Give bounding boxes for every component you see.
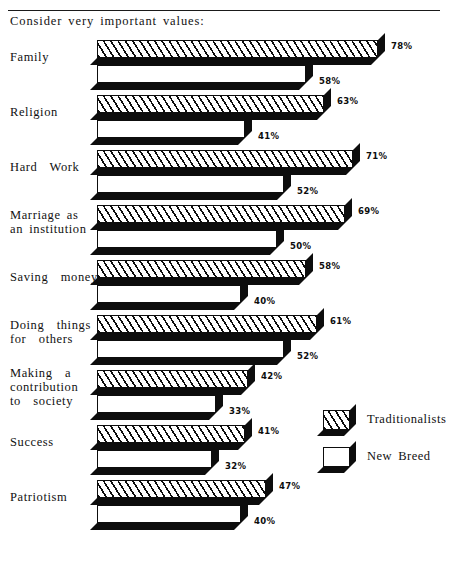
- category-label: Marriage as an institution: [10, 208, 87, 236]
- bar-value-label: 52%: [297, 186, 318, 196]
- category-label: Success: [10, 435, 54, 449]
- bar-new-breed: [97, 65, 306, 83]
- bar-new-breed: [97, 120, 245, 138]
- bar-face: [97, 230, 277, 248]
- bar-traditionalists: [97, 425, 245, 443]
- bar-shadow-bottom: [90, 468, 212, 475]
- bar-traditionalists: [97, 205, 345, 223]
- bar-shadow-bottom: [90, 278, 306, 285]
- bar-value-label: 40%: [254, 296, 275, 306]
- bar-new-breed: [97, 230, 277, 248]
- category-label: Doing things for others: [10, 318, 91, 346]
- bar-shadow-bottom: [90, 138, 245, 145]
- bar-group: Saving money58%40%: [0, 260, 462, 313]
- bar-traditionalists: [97, 40, 378, 58]
- bar-value-label: 32%: [225, 461, 246, 471]
- bar-shadow-bottom: [90, 443, 245, 450]
- bar-face: [97, 260, 306, 278]
- page-title: Consider very important values:: [10, 14, 205, 29]
- bar-shadow-bottom: [90, 113, 324, 120]
- bar-face: [97, 425, 245, 443]
- bar-group: Patriotism47%40%: [0, 480, 462, 533]
- bar-new-breed: [97, 340, 284, 358]
- swatch-face: [323, 447, 350, 467]
- bar-shadow-right: [378, 33, 385, 58]
- bar-new-breed: [97, 450, 212, 468]
- bar-traditionalists: [97, 260, 306, 278]
- bar-value-label: 42%: [261, 371, 282, 381]
- category-label: Family: [10, 50, 49, 64]
- bar-face: [97, 395, 216, 413]
- bar-traditionalists: [97, 480, 266, 498]
- legend-label-new-breed: New Breed: [367, 449, 431, 464]
- legend-swatch-new-breed: [323, 447, 350, 467]
- bar-shadow-bottom: [90, 498, 266, 505]
- category-label: Patriotism: [10, 490, 67, 504]
- bar-shadow-bottom: [90, 388, 248, 395]
- bar-new-breed: [97, 395, 216, 413]
- bar-face: [97, 285, 241, 303]
- bar-shadow-bottom: [90, 303, 241, 310]
- bar-group: Religion63%41%: [0, 95, 462, 148]
- bar-shadow-bottom: [90, 413, 216, 420]
- category-label: Hard Work: [10, 160, 79, 174]
- bar-group: Doing things for others61%52%: [0, 315, 462, 368]
- legend-label-traditionalists: Traditionalists: [367, 412, 446, 427]
- category-label: Making a contribution to society: [10, 366, 78, 408]
- bar-face: [97, 370, 248, 388]
- bar-group: Marriage as an institution69%50%: [0, 205, 462, 258]
- bar-value-label: 33%: [229, 406, 250, 416]
- title-rule: [8, 10, 440, 11]
- bar-value-label: 50%: [290, 241, 311, 251]
- bar-value-label: 61%: [330, 316, 351, 326]
- chart-page: Consider very important values: Family78…: [0, 0, 462, 564]
- bar-value-label: 47%: [279, 481, 300, 491]
- bar-traditionalists: [97, 95, 324, 113]
- bar-face: [97, 95, 324, 113]
- bar-value-label: 69%: [358, 206, 379, 216]
- bar-face: [97, 175, 284, 193]
- bar-new-breed: [97, 175, 284, 193]
- bar-value-label: 41%: [258, 426, 279, 436]
- bar-shadow-bottom: [90, 58, 378, 65]
- bar-face: [97, 40, 378, 58]
- bar-shadow-bottom: [90, 523, 241, 530]
- legend-swatch-traditionalists: [323, 410, 350, 430]
- bar-value-label: 52%: [297, 351, 318, 361]
- bar-face: [97, 150, 353, 168]
- bar-value-label: 58%: [319, 261, 340, 271]
- category-label: Religion: [10, 105, 58, 119]
- bar-new-breed: [97, 505, 241, 523]
- bar-value-label: 58%: [319, 76, 340, 86]
- bar-shadow-bottom: [90, 83, 306, 90]
- bar-group: Family78%58%: [0, 40, 462, 93]
- bar-face: [97, 340, 284, 358]
- bar-shadow-bottom: [90, 168, 353, 175]
- bar-face: [97, 505, 241, 523]
- bar-shadow-bottom: [90, 193, 284, 200]
- bar-value-label: 63%: [337, 96, 358, 106]
- bar-face: [97, 120, 245, 138]
- bar-new-breed: [97, 285, 241, 303]
- swatch-face: [323, 410, 350, 430]
- bar-face: [97, 65, 306, 83]
- bar-face: [97, 480, 266, 498]
- bar-shadow-bottom: [90, 223, 345, 230]
- bar-face: [97, 205, 345, 223]
- bar-face: [97, 450, 212, 468]
- bar-traditionalists: [97, 370, 248, 388]
- bar-shadow-bottom: [90, 333, 317, 340]
- bar-value-label: 71%: [366, 151, 387, 161]
- bar-value-label: 78%: [391, 41, 412, 51]
- bar-face: [97, 315, 317, 333]
- bar-traditionalists: [97, 150, 353, 168]
- bar-group: Hard Work71%52%: [0, 150, 462, 203]
- bar-value-label: 40%: [254, 516, 275, 526]
- bar-value-label: 41%: [258, 131, 279, 141]
- bar-traditionalists: [97, 315, 317, 333]
- category-label: Saving money: [10, 270, 98, 284]
- bar-shadow-bottom: [90, 248, 277, 255]
